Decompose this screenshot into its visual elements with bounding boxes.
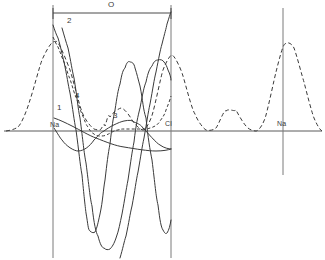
curve-label-4: 4 — [75, 92, 79, 100]
site-label-na-right: Na — [277, 120, 286, 127]
curve-2-path — [53, 25, 171, 234]
wavefunction-figure: O Na Cl Na 1 2 3 4 — [0, 0, 325, 260]
span-bracket-label: O — [108, 1, 114, 9]
plot-canvas — [0, 0, 325, 260]
curve-deep-lobe-path — [62, 28, 171, 250]
curve-label-1: 1 — [57, 104, 61, 112]
curve-label-2: 2 — [67, 17, 71, 25]
site-label-cl: Cl — [165, 120, 172, 127]
curve-rising-edge-path — [120, 12, 171, 258]
curve-label-3: 3 — [113, 112, 117, 120]
site-label-na-left: Na — [50, 121, 59, 128]
